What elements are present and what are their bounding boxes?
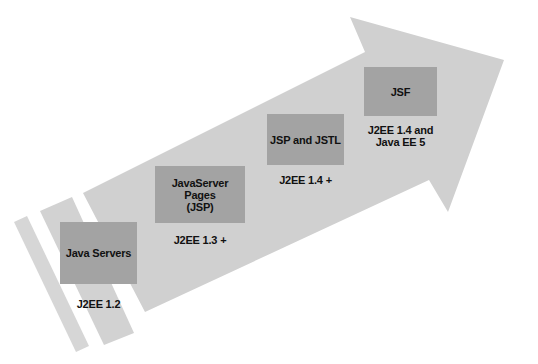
stage-label: JavaServer Pages (JSP)	[155, 177, 245, 213]
stage-box-jsp-jstl: JSP and JSTL	[267, 114, 344, 165]
stage-box-jsf: JSF	[364, 67, 437, 116]
stage-box-java-servers: Java Servers	[60, 222, 137, 284]
stage-label: JSP and JSTL	[270, 134, 341, 146]
stage-version: J2EE 1.2	[60, 298, 137, 310]
stage-version: J2EE 1.3 +	[155, 234, 245, 246]
stage-label: Java Servers	[66, 247, 132, 259]
stage-box-jsp: JavaServer Pages (JSP)	[155, 166, 245, 223]
stage-label: JSF	[391, 86, 411, 98]
stage-version: J2EE 1.4 and Java EE 5	[356, 124, 445, 148]
stage-version: J2EE 1.4 +	[267, 174, 344, 186]
